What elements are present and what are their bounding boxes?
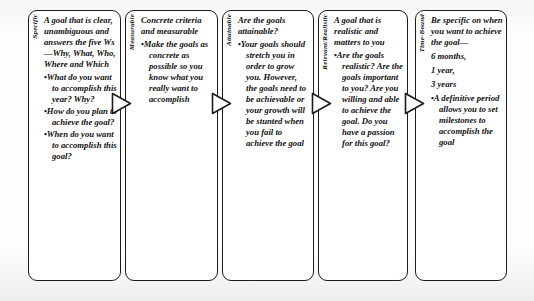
- bullet-item: How do you plan to achieve the goal?: [44, 106, 117, 128]
- right-flow-arrow-icon: [111, 92, 132, 115]
- intro-text: Be specific on when you want to achieve …: [431, 15, 503, 48]
- column-relevant-realistic: Relevant/Realistic A goal that is realis…: [318, 10, 408, 281]
- column-time-bound-label: Time-Bound: [418, 14, 426, 52]
- bullet-item: Make the goals as concrete as possible s…: [141, 39, 214, 105]
- intro-text: Concrete criteria and measurable: [141, 15, 214, 37]
- right-flow-arrow-icon: [211, 92, 232, 115]
- right-flow-arrow-icon: [404, 92, 425, 115]
- column-measurable: Measurable Concrete criteria and measura…: [125, 10, 218, 281]
- bullet-item: What do you want to accomplish this year…: [44, 72, 117, 105]
- bullet-list: Are the goals realistic? Are the goals i…: [334, 50, 404, 149]
- column-measurable-content: Concrete criteria and measurable Make th…: [141, 11, 217, 105]
- bullet-item: Your goals should stretch you in order t…: [238, 39, 310, 149]
- bullet-item: A definitive period allows you to set mi…: [431, 93, 503, 148]
- intro-text: A goal that is realistic and matters to …: [334, 15, 404, 48]
- bullet-list: Your goals should stretch you in order t…: [238, 39, 310, 149]
- bullet-list: A definitive period allows you to set mi…: [431, 93, 503, 148]
- column-specific-content: A goal that is clear, unambiguous and an…: [44, 11, 120, 162]
- right-flow-arrow-icon: [311, 92, 332, 115]
- timeframe-line: 3 years: [431, 79, 503, 90]
- column-time-bound-content: Be specific on when you want to achieve …: [431, 11, 506, 148]
- column-time-bound: Time-Bound Be specific on when you want …: [415, 10, 507, 281]
- timeframe-line: 6 months,: [431, 51, 503, 62]
- column-relevant-realistic-label: Relevant/Realistic: [321, 14, 329, 70]
- bullet-list: Make the goals as concrete as possible s…: [141, 39, 214, 105]
- bullet-item: When do you want to accomplish this goal…: [44, 129, 117, 162]
- column-measurable-label: Measurable: [128, 14, 136, 50]
- bullet-item: Are the goals realistic? Are the goals i…: [334, 50, 404, 149]
- column-attainable-label: Attainable: [225, 14, 233, 46]
- column-attainable: Attainable Are the goals attainable? You…: [222, 10, 314, 281]
- column-attainable-content: Are the goals attainable? Your goals sho…: [238, 11, 313, 149]
- column-specific: Specific A goal that is clear, unambiguo…: [28, 10, 121, 281]
- bullet-list: What do you want to accomplish this year…: [44, 72, 117, 162]
- timeframe-line: 1 year,: [431, 65, 503, 76]
- intro-text: A goal that is clear, unambiguous and an…: [44, 15, 117, 70]
- smart-goals-diagram: Specific A goal that is clear, unambiguo…: [0, 0, 534, 301]
- column-specific-label: Specific: [31, 14, 39, 39]
- column-relevant-realistic-content: A goal that is realistic and matters to …: [334, 11, 407, 149]
- intro-text: Are the goals attainable?: [238, 15, 310, 37]
